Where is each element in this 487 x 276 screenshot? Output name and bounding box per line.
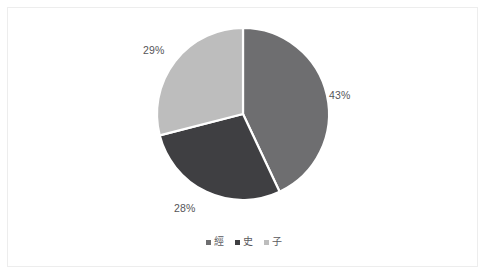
legend-item-label: 史: [243, 237, 253, 247]
data-label-classics: 43%: [329, 90, 351, 101]
pie-chart-figure: 43% 29% 28% 經 史 子: [0, 0, 487, 276]
data-label-masters: 29%: [143, 45, 165, 56]
legend-swatch-icon: [206, 240, 211, 245]
chart-legend: 經 史 子: [0, 237, 487, 247]
chart-plot-area: 43% 29% 28% 經 史 子: [0, 0, 487, 276]
legend-item-label: 經: [214, 237, 224, 247]
legend-item-history[interactable]: 史: [235, 237, 253, 247]
pie-slices: [157, 28, 329, 200]
legend-item-label: 子: [272, 237, 282, 247]
legend-item-masters[interactable]: 子: [264, 237, 282, 247]
data-label-history: 28%: [174, 203, 196, 214]
legend-swatch-icon: [264, 240, 269, 245]
legend-swatch-icon: [235, 240, 240, 245]
pie-svg: [0, 0, 487, 276]
legend-item-classics[interactable]: 經: [206, 237, 224, 247]
